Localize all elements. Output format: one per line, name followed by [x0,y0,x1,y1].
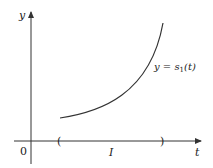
y-axis-label: y [18,9,26,22]
origin-label: 0 [20,145,27,158]
interval-left-bracket: ( [57,135,61,148]
graph-figure: y t 0 ( ) I y = s1(t) [0,0,213,168]
interval-label: I [108,146,114,159]
curve-s1 [60,23,163,118]
x-axis-label: t [195,146,200,159]
interval-right-bracket: ) [160,135,164,148]
curve-label: y = s1(t) [153,61,196,74]
